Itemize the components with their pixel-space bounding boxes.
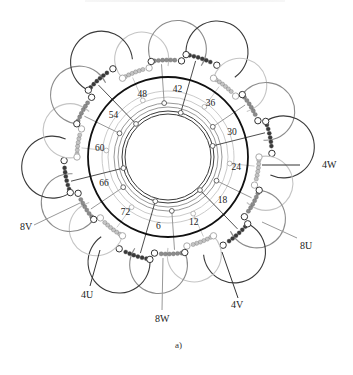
slot-bead — [269, 140, 273, 144]
coil-terminal — [184, 243, 190, 249]
coil-terminal — [146, 65, 152, 71]
coil-terminal — [91, 216, 97, 222]
terminal-label-4w: 4W — [322, 160, 336, 170]
terminal-label-8u: 8U — [300, 241, 312, 251]
slot-bead — [128, 252, 132, 256]
slot-bead — [256, 166, 260, 170]
inner-ring-3 — [118, 107, 218, 207]
slot-bead — [229, 89, 233, 93]
coil-terminal — [232, 93, 238, 99]
slot-bead — [200, 57, 204, 61]
junction-node — [140, 98, 145, 103]
slot-bead — [173, 58, 177, 62]
junction-node — [169, 209, 174, 214]
slot-number-label: 36 — [206, 98, 216, 108]
slot-bead — [256, 169, 260, 173]
junction-node — [104, 148, 109, 153]
slot-bead — [75, 148, 79, 152]
connection-lead — [71, 168, 123, 181]
slot-number-label: 30 — [227, 127, 237, 137]
slot-bead — [66, 183, 70, 187]
coil-terminal — [74, 121, 80, 127]
slot-bead — [191, 242, 195, 246]
junction-node — [210, 124, 215, 129]
slot-bead — [234, 234, 238, 238]
terminal-label-8w: 8W — [155, 314, 169, 324]
terminal-label-8v: 8V — [20, 222, 32, 232]
slot-bead — [253, 112, 257, 116]
junction-node — [198, 188, 203, 193]
slot-bead — [86, 101, 90, 105]
coil-terminal — [74, 154, 80, 160]
slot-number-label: 54 — [109, 110, 119, 120]
coil-terminal — [256, 154, 262, 160]
junction-node — [210, 144, 215, 149]
inner-ring-1 — [108, 97, 228, 217]
slot-bead — [227, 239, 231, 243]
junction-node — [191, 211, 196, 216]
slot-bead — [175, 251, 179, 255]
coil-terminal — [256, 187, 262, 193]
slot-bead — [255, 173, 259, 177]
slot-bead — [269, 144, 273, 148]
slot-bead — [257, 162, 261, 166]
connection-lead — [140, 201, 155, 253]
slot-bead — [103, 220, 107, 224]
slot-bead — [140, 256, 144, 260]
coil-terminal — [241, 214, 247, 220]
slot-bead — [63, 170, 67, 174]
terminal-lead-line — [262, 222, 297, 238]
coil-terminal — [88, 94, 94, 100]
slot-bead — [78, 133, 82, 137]
coil-terminal — [75, 190, 81, 196]
coil-terminal — [210, 75, 216, 81]
slot-bead — [79, 197, 83, 201]
coil-terminal — [239, 91, 245, 97]
junction-node — [162, 101, 167, 106]
slot-bead — [208, 60, 212, 64]
slot-number-label: 48 — [137, 89, 147, 99]
slot-bead — [204, 58, 208, 62]
junction-node — [117, 131, 122, 136]
coil-terminal — [151, 250, 157, 256]
slot-bead — [159, 252, 163, 256]
slot-bead — [167, 252, 171, 256]
slot-number-label: 18 — [218, 195, 228, 205]
coil-terminal — [178, 58, 184, 64]
slot-bead — [156, 58, 160, 62]
slot-number-label: 42 — [173, 84, 183, 94]
slot-number-label: 12 — [189, 217, 199, 227]
slot-number-label: 6 — [156, 221, 161, 231]
coil-terminal — [251, 182, 257, 188]
slot-bead — [254, 177, 258, 181]
coil-terminal — [269, 150, 275, 156]
end-turn-loop — [230, 190, 285, 248]
coil-terminal — [148, 58, 154, 64]
coil-terminal — [61, 157, 67, 163]
junction-node — [134, 122, 139, 127]
coil-terminal — [119, 75, 125, 81]
slot-bead — [268, 135, 272, 139]
junction-node — [214, 178, 219, 183]
slot-bead — [101, 73, 105, 77]
junction-node — [153, 199, 158, 204]
terminal-lead-line — [162, 258, 163, 310]
end-turn-loop — [51, 66, 106, 124]
slot-bead — [231, 236, 235, 240]
coil-terminal — [255, 118, 261, 124]
coil-terminal — [183, 51, 189, 57]
coil-terminal — [263, 118, 269, 124]
junction-node — [178, 110, 183, 115]
slot-bead — [141, 67, 145, 71]
slot-bead — [64, 174, 68, 178]
slot-bead — [171, 252, 175, 256]
stator-ring — [88, 77, 248, 237]
slot-bead — [63, 166, 67, 170]
inner-ring-2 — [114, 103, 222, 211]
junction-node — [121, 166, 126, 171]
slot-bead — [98, 76, 102, 80]
slot-bead — [161, 58, 165, 62]
slot-bead — [196, 55, 200, 59]
slot-bead — [246, 209, 250, 213]
slot-number-label: 66 — [99, 178, 109, 188]
